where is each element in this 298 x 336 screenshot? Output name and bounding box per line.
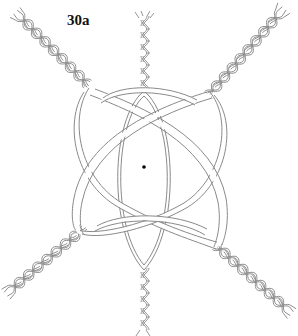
figure-label: 30a: [67, 12, 90, 29]
braid-top-right: [201, 3, 290, 102]
central-knot: [72, 88, 227, 270]
twist-bottom: [136, 268, 150, 336]
knot-diagram: [0, 0, 298, 336]
braid-bottom-right: [210, 239, 296, 318]
twist-top: [135, 11, 154, 90]
braid-bottom-left: [2, 222, 90, 299]
center-dot: [142, 165, 146, 169]
